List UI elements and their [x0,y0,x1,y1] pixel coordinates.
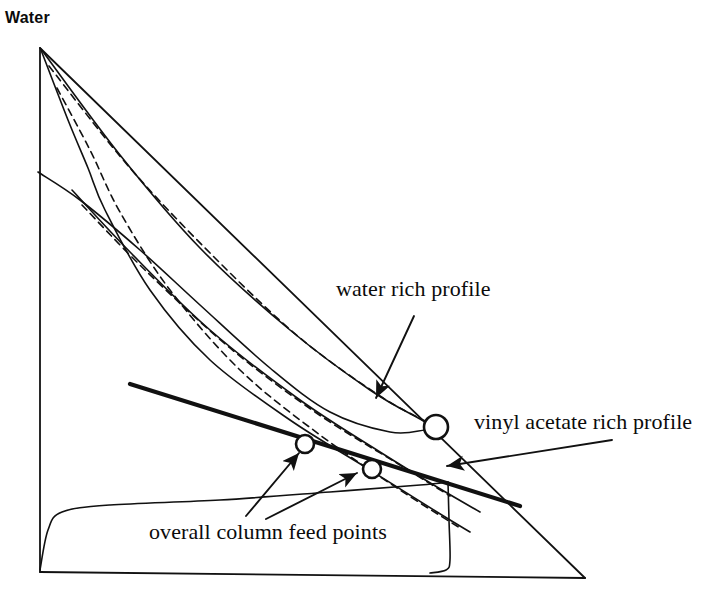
curve-hypotenuse [40,48,585,578]
triangle-frame [40,48,585,578]
annotation-overall-column-feed-points: overall column feed points [149,519,387,545]
curve-middle-profile-dashed [82,205,450,496]
vertex-label-water: Water [5,9,50,27]
point-profile-junction-point [424,415,448,439]
annotation-vinyl-acetate-rich-profile: vinyl acetate rich profile [474,409,692,435]
leader-line-vinyl-acetate-rich-profile-1 [447,440,612,466]
point-feed-point-2 [363,460,381,478]
leader-line-water-rich-profile-0 [376,316,414,398]
annotation-water-rich-profile: water rich profile [336,276,491,302]
curve-middle-profile-solid [72,190,480,512]
figure-canvas: Water water rich profile vinyl acetate r… [0,0,719,602]
curve-bottom-edge [40,572,585,578]
curve-mass-balance-line [130,384,520,506]
point-feed-point-1 [296,435,314,453]
composition-profile-curves [38,49,520,573]
curve-binodal-right-leg [430,482,450,573]
